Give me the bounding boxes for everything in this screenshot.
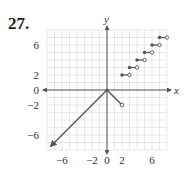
y-tick-label: 2	[34, 69, 40, 81]
x-tick-label: 6	[149, 154, 155, 166]
closed-dot	[143, 51, 146, 54]
closed-dot	[158, 36, 161, 39]
closed-dot	[120, 73, 123, 76]
y-tick-label: 6	[34, 39, 40, 51]
open-dot	[165, 36, 168, 39]
y-axis-label: y	[103, 13, 109, 25]
y-tick-label: −6	[27, 129, 39, 141]
tick-labels: −6−2026620−2−6	[27, 39, 155, 166]
x-tick-label: 0	[104, 154, 110, 166]
coordinate-plot: xy −6−2026620−2−6	[0, 0, 189, 180]
x-tick-label: −6	[56, 154, 68, 166]
closed-dot	[128, 66, 131, 69]
open-dot	[135, 66, 138, 69]
y-tick-label: 0	[34, 84, 40, 96]
open-dot	[150, 51, 153, 54]
closed-dot	[135, 58, 138, 61]
y-tick-label: −2	[27, 99, 39, 111]
open-dot	[120, 103, 124, 107]
ray	[51, 90, 107, 146]
x-axis-label: x	[173, 84, 179, 96]
x-tick-label: 2	[119, 154, 125, 166]
closed-dot	[150, 43, 153, 46]
open-dot	[128, 73, 131, 76]
open-dot	[143, 58, 146, 61]
closed-dot	[105, 88, 108, 91]
open-dot	[158, 43, 161, 46]
x-tick-label: −2	[86, 154, 98, 166]
